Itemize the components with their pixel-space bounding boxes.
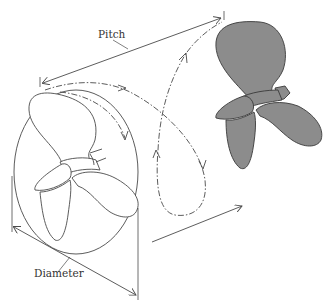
propeller-diagram: Pitch Diameter	[0, 0, 328, 305]
direction-arrow	[152, 206, 242, 242]
pitch-dimension	[40, 11, 224, 87]
propeller-outline	[29, 93, 138, 240]
diagram-canvas	[0, 0, 328, 305]
helical-path-arrows	[118, 53, 206, 169]
propeller-shaded	[216, 22, 322, 169]
diameter-label: Diameter	[34, 267, 84, 279]
pitch-label: Pitch	[98, 28, 125, 40]
